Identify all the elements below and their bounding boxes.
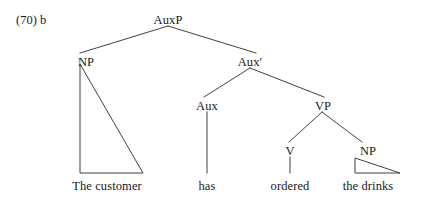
branch-auxp-to-auxbar: [168, 26, 256, 53]
subject-np-triangle: [80, 64, 143, 173]
node-aux-bar: Aux′: [238, 56, 263, 69]
branch-auxbar-to-vp: [250, 68, 324, 97]
terminal-subject: The customer: [72, 180, 142, 193]
terminal-object: the drinks: [343, 180, 394, 193]
node-object-np: NP: [360, 145, 376, 158]
branch-auxbar-to-aux: [204, 68, 250, 97]
branch-vp-to-np: [322, 112, 362, 142]
terminal-auxiliary: has: [199, 180, 216, 193]
node-vp: VP: [315, 100, 331, 113]
figure-canvas: (70) b AuxP NP Aux′ Aux VP V NP The cust…: [0, 0, 438, 206]
node-auxp: AuxP: [154, 14, 183, 27]
object-np-triangle: [355, 158, 400, 173]
branch-vp-to-v: [289, 112, 322, 142]
node-verb: V: [285, 145, 294, 158]
node-aux-head: Aux: [196, 100, 218, 113]
branch-auxp-to-np: [80, 26, 168, 53]
node-subject-np: NP: [78, 56, 94, 69]
tree-diagram-svg: [0, 0, 438, 206]
terminal-verb: ordered: [271, 180, 310, 193]
